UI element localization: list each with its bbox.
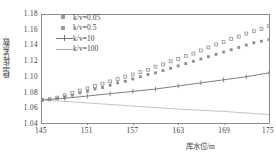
data-point <box>131 78 134 81</box>
data-point <box>260 40 263 43</box>
data-point <box>116 81 119 84</box>
data-point <box>162 63 165 66</box>
data-point <box>252 30 255 33</box>
legend-label: k/v=0.5 <box>73 23 97 32</box>
legend-item-kv-0-5[interactable]: k/v=0.5 <box>56 23 136 34</box>
data-point <box>207 55 210 58</box>
data-point <box>94 85 97 88</box>
y-tick-label: 1.06 <box>24 104 38 112</box>
x-tick-label: 151 <box>81 127 93 135</box>
x-tick-label: 145 <box>35 127 47 135</box>
data-point <box>230 48 233 51</box>
data-point <box>139 71 142 74</box>
data-point <box>146 68 149 71</box>
chart-figure: 稳定性系数 1.18 1.16 1.14 1.12 1.10 1.08 1.06… <box>0 0 276 158</box>
data-point <box>237 35 240 38</box>
data-point <box>78 91 81 94</box>
legend-item-kv-10[interactable]: k/v=10 <box>56 33 136 44</box>
legend-item-kv-100[interactable]: k/v=100 <box>56 44 136 55</box>
data-point <box>184 54 187 57</box>
data-point <box>146 73 149 76</box>
data-point <box>215 43 218 46</box>
data-point <box>192 52 195 55</box>
data-point <box>162 69 165 72</box>
data-point <box>222 51 225 54</box>
data-point <box>109 84 112 87</box>
y-tick-label: 1.18 <box>24 10 38 18</box>
x-axis-tick-labels: 145 151 157 163 169 175 <box>0 127 276 139</box>
data-point <box>124 80 127 83</box>
data-point <box>260 27 263 30</box>
data-point <box>94 88 97 91</box>
legend-marker-line-tick-icon <box>56 33 73 43</box>
y-tick-label: 1.08 <box>24 89 38 97</box>
data-point <box>268 24 269 27</box>
data-point <box>86 90 89 93</box>
data-point <box>237 46 240 49</box>
legend-marker-line-icon <box>56 44 73 54</box>
data-point <box>252 41 255 44</box>
data-point <box>71 94 74 97</box>
data-point <box>139 75 142 78</box>
data-point <box>199 49 202 52</box>
y-tick-label: 1.14 <box>24 41 38 49</box>
series-line <box>42 73 269 100</box>
series-2 <box>42 71 269 103</box>
data-point <box>131 73 134 76</box>
data-point <box>169 67 172 70</box>
series-3 <box>42 100 269 115</box>
data-point <box>184 62 187 65</box>
x-tick-label: 175 <box>262 127 274 135</box>
data-point <box>177 64 180 67</box>
x-tick-label: 157 <box>127 127 139 135</box>
data-point <box>245 44 248 47</box>
data-point <box>86 87 89 90</box>
data-point <box>154 65 157 68</box>
legend-label: k/v=100 <box>73 44 98 53</box>
data-point <box>116 78 119 81</box>
data-point <box>109 80 112 83</box>
data-point <box>177 58 180 61</box>
data-point <box>245 32 248 35</box>
data-point <box>199 58 202 61</box>
data-point <box>154 71 157 74</box>
legend-marker-open-square-icon <box>56 12 73 22</box>
data-point <box>230 37 233 40</box>
legend-label: k/v=10 <box>73 34 95 43</box>
x-axis-title: 库水位/m <box>186 140 215 151</box>
data-point <box>124 75 127 78</box>
data-point <box>101 82 104 85</box>
y-tick-label: 1.10 <box>24 73 38 81</box>
y-tick-label: 1.12 <box>24 57 38 65</box>
y-tick-label: 1.16 <box>24 26 38 34</box>
data-point <box>207 46 210 49</box>
legend-label: k/v=0.05 <box>73 13 100 22</box>
data-point <box>215 53 218 56</box>
data-point <box>192 60 195 63</box>
x-tick-label: 169 <box>218 127 230 135</box>
chart-legend: k/v=0.05 k/v=0.5 k/v=10 k/v=100 <box>56 12 136 54</box>
data-point <box>222 41 225 44</box>
legend-item-kv-0-05[interactable]: k/v=0.05 <box>56 12 136 23</box>
data-point <box>268 38 269 41</box>
x-tick-label: 163 <box>172 127 184 135</box>
legend-marker-filled-square-icon <box>56 23 73 33</box>
data-point <box>169 60 172 63</box>
series-line <box>42 100 269 115</box>
data-point <box>101 86 104 89</box>
